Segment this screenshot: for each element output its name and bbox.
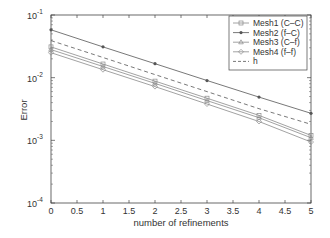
legend-label: Mesh4 (f–f)	[253, 47, 296, 57]
y-tick-exponent: -1	[37, 8, 43, 15]
y-tick-exponent: -4	[37, 196, 43, 203]
y-tick-label: 10	[27, 199, 37, 209]
dot-marker	[153, 62, 156, 65]
y-tick-exponent: -2	[37, 71, 43, 78]
x-tick-label: 2	[152, 206, 157, 216]
x-tick-label: 3.5	[227, 206, 240, 216]
x-tick-label: 1	[100, 206, 105, 216]
y-tick-exponent: -3	[37, 133, 43, 140]
legend-label: Mesh1 (C–C)	[253, 18, 304, 28]
x-tick-label: 4.5	[279, 206, 292, 216]
x-tick-label: 3	[204, 206, 209, 216]
dot-marker	[309, 112, 312, 115]
legend: Mesh1 (C–C)Mesh2 (f–C)Mesh3 (C–f)Mesh4 (…	[229, 16, 307, 70]
x-axis-label: number of refinements	[133, 217, 228, 228]
x-tick-label: 0.5	[71, 206, 84, 216]
dot-marker	[49, 28, 52, 31]
legend-label: Mesh3 (C–f)	[253, 37, 300, 47]
y-tick-label: 10	[27, 136, 37, 146]
y-tick-label: 10	[27, 74, 37, 84]
error-convergence-chart: 00.511.522.533.544.55 10-110-210-310-4 M…	[0, 0, 330, 238]
y-axis-label: Error	[18, 99, 29, 120]
legend-label: h	[253, 56, 258, 66]
x-tick-label: 1.5	[123, 206, 136, 216]
x-tick-label: 4	[256, 206, 261, 216]
dot-marker	[101, 45, 104, 48]
x-tick-label: 5	[308, 206, 313, 216]
x-tick-label: 2.5	[175, 206, 188, 216]
dot-marker	[239, 31, 242, 34]
legend-label: Mesh2 (f–C)	[253, 28, 300, 38]
x-tick-label: 0	[48, 206, 53, 216]
y-tick-label: 10	[27, 11, 37, 21]
dot-marker	[205, 79, 208, 82]
dot-marker	[257, 95, 260, 98]
